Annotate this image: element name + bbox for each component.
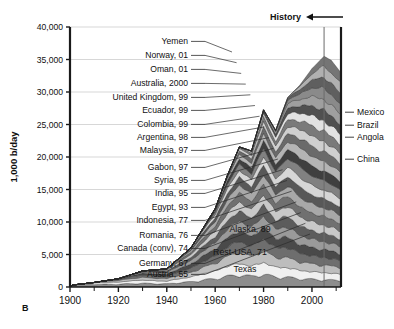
y-tick-label: 30,000 bbox=[37, 87, 64, 97]
y-tick-label: 35,000 bbox=[37, 55, 64, 65]
y-tick-label: 20,000 bbox=[37, 152, 64, 162]
series-annotation-label: Australia, 2000 bbox=[131, 78, 189, 88]
series-annotation-label: Yemen bbox=[162, 36, 189, 46]
series-annotation-label: Indonesia, 77 bbox=[136, 215, 188, 225]
series-annotation-label: Romania, 76 bbox=[139, 230, 188, 240]
series-annotation-label: Argentina, 98 bbox=[137, 132, 188, 142]
series-inline-label: Texas bbox=[234, 264, 258, 274]
y-tick-label: 0 bbox=[58, 282, 63, 292]
history-label: History bbox=[270, 12, 301, 22]
series-annotation-label: United Kingdom, 99 bbox=[113, 92, 189, 102]
y-tick-label: 25,000 bbox=[37, 120, 64, 130]
figure-panel-b: 05,00010,00015,00020,00025,00030,00035,0… bbox=[0, 0, 394, 329]
x-tick-label: 2000 bbox=[301, 295, 324, 306]
series-annotation-label: Syria, 95 bbox=[154, 175, 188, 185]
series-inline-label: Alaska, 89 bbox=[229, 224, 270, 234]
series-annotation-label: Mexico bbox=[357, 107, 384, 117]
series-annotation-label: Egypt, 93 bbox=[152, 202, 189, 212]
series-annotation-label: Ecuador, 99 bbox=[142, 105, 188, 115]
series-annotation-label: Angola bbox=[357, 132, 384, 142]
series-annotation-label: Malaysia, 97 bbox=[140, 145, 188, 155]
series-annotation-label: India, 95 bbox=[155, 188, 188, 198]
series-annotation-label: China bbox=[357, 154, 380, 164]
stacked-area-chart: 05,00010,00015,00020,00025,00030,00035,0… bbox=[0, 0, 394, 329]
y-axis-label: 1,000 b/day bbox=[8, 131, 19, 183]
series-annotation-label: Colombia, 99 bbox=[137, 119, 188, 129]
panel-label: B bbox=[22, 303, 29, 313]
y-tick-label: 5,000 bbox=[41, 250, 63, 260]
series-annotation-label: Norway, 01 bbox=[145, 50, 188, 60]
series-inline-label: Rest-USA, 71 bbox=[213, 247, 267, 257]
x-tick-label: 1940 bbox=[156, 295, 179, 306]
y-tick-label: 15,000 bbox=[37, 185, 64, 195]
y-tick-label: 40,000 bbox=[37, 22, 64, 32]
x-tick-label: 1920 bbox=[107, 295, 130, 306]
series-annotation-label: Austria, 55 bbox=[147, 269, 188, 279]
series-annotation-label: Gabon, 97 bbox=[148, 162, 188, 172]
series-annotation-label: Brazil bbox=[357, 120, 379, 130]
series-annotation-label: Oman, 01 bbox=[150, 64, 188, 74]
series-annotation-label: Germany, 67 bbox=[139, 258, 188, 268]
series-annotation-label: Canada (conv), 74 bbox=[117, 243, 188, 253]
x-tick-label: 1900 bbox=[59, 295, 82, 306]
x-tick-label: 1960 bbox=[204, 295, 227, 306]
x-tick-label: 1980 bbox=[252, 295, 275, 306]
y-tick-label: 10,000 bbox=[37, 217, 64, 227]
